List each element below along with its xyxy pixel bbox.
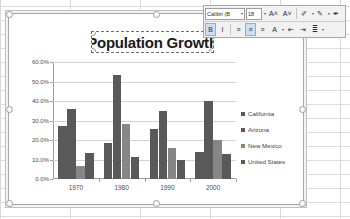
highlight-color-icon[interactable]: ✐ [299,7,310,20]
chart-bar[interactable] [168,148,177,179]
legend-item-label: United States [248,158,285,165]
y-axis-tick [50,121,53,122]
chart-bar[interactable] [104,143,113,179]
x-axis-tick-label: 1990 [160,184,174,191]
highlight-color-chevron-down-icon[interactable]: ▾ [312,11,314,16]
legend-item[interactable]: New Mexico [241,142,305,149]
y-axis-tick [50,101,53,102]
chart-handle-middle-left[interactable] [6,106,13,113]
align-center-button[interactable]: ≡ [245,23,256,36]
chart-bar[interactable] [67,109,76,179]
y-axis-tick-label: 60.0% [32,59,49,65]
shrink-font-icon[interactable]: A˅ [281,7,294,20]
legend-item[interactable]: California [241,110,305,117]
bullets-icon[interactable]: ≣ [309,23,320,36]
chart-bar[interactable] [177,160,186,180]
chart-handle-bottom-middle[interactable] [153,200,160,207]
chart-bar[interactable] [204,101,213,179]
x-axis-tick [145,179,146,182]
y-axis-tick-label: 50.0% [32,79,49,85]
decrease-indent-icon[interactable]: ⇤ [285,23,296,36]
font-settings-icon[interactable]: A [269,23,280,36]
chart-bar[interactable] [113,75,122,179]
x-axis-tick-label: 2000 [206,184,220,191]
font-size-combo[interactable]: 18 [246,8,262,20]
y-axis-tick-label: 20.0% [32,137,49,143]
chart-bar[interactable] [213,140,222,179]
chart-bar[interactable] [195,152,204,179]
y-axis-tick-label: 40.0% [32,98,49,104]
x-axis-tick-label: 1980 [114,184,128,191]
chart-bar[interactable] [122,124,131,179]
legend-item[interactable]: Arizona [241,126,305,133]
align-right-button[interactable]: ≡ [257,23,268,36]
legend-item-label: New Mexico [248,142,282,149]
chart-bar-group[interactable] [58,62,94,179]
chart-bar[interactable] [76,166,85,179]
italic-button[interactable]: I [217,23,228,36]
font-size-value: 18 [248,11,260,17]
increase-indent-icon[interactable]: ⇥ [297,23,308,36]
legend-swatch-icon [241,112,245,116]
x-axis-tick [190,179,191,182]
chart-bar-group[interactable] [195,62,231,179]
format-painter-icon[interactable]: ✒ [331,7,342,20]
sheet-row-divider [0,216,350,217]
font-name-value: Calibri (B [207,11,240,17]
chart-handle-top-middle[interactable] [153,11,160,18]
grow-font-icon[interactable]: A˄ [267,7,280,20]
chart-title-text: Population Growth [91,35,214,50]
y-axis-tick [50,82,53,83]
y-axis-labels: 60.0%50.0%40.0%30.0%20.0%10.0%0.0% [9,62,49,179]
x-axis-tick [236,179,237,182]
x-axis-tick-label: 1970 [69,184,83,191]
chart-plot-area[interactable]: 1970198019902000 [53,62,236,179]
legend-swatch-icon [241,128,245,132]
chart-handle-middle-right[interactable] [299,106,306,113]
chart-bar[interactable] [58,126,67,179]
chart-object[interactable]: 60.0%50.0%40.0%30.0%20.0%10.0%0.0% 19701… [8,13,304,205]
y-axis-tick [50,160,53,161]
chart-bar[interactable] [150,129,159,179]
chart-bar[interactable] [222,154,231,179]
y-axis-tick [50,179,53,180]
y-axis-tick-label: 10.0% [32,157,49,163]
chart-bar[interactable] [159,111,168,179]
chevron-down-icon: ▾ [241,11,243,16]
y-axis-tick-label: 30.0% [32,118,49,124]
chart-handle-bottom-right[interactable] [299,200,306,207]
chart-title-box[interactable]: Population Growth [91,31,214,53]
font-color-icon[interactable]: ✎ [315,7,326,20]
font-name-combo[interactable]: Calibri (B ▾ [205,8,245,20]
bullets-chevron-down-icon[interactable]: ▾ [322,27,324,32]
chart-legend[interactable]: CaliforniaArizonaNew MexicoUnited States [241,110,305,174]
title-handle-bottom-right[interactable] [209,48,214,53]
chart-bar[interactable] [131,157,140,179]
chart-handle-bottom-left[interactable] [6,200,13,207]
x-axis-tick [99,179,100,182]
legend-swatch-icon [241,160,245,164]
mini-toolbar-row-2: B I ≡ ≡ ≡ A ▾ ⇤ ⇥ ≣ ▾ [204,21,345,37]
font-color-chevron-down-icon[interactable]: ▾ [328,11,330,16]
legend-item-label: Arizona [248,126,269,133]
font-size-chevron-down-icon[interactable]: ▾ [264,11,266,16]
toolbar-separator [296,8,297,19]
mini-toolbar-row-1: Calibri (B ▾ 18 ▾ A˄ A˅ ✐ ▾ ✎ ▾ ✒ [204,6,345,21]
font-settings-chevron-down-icon[interactable]: ▾ [282,27,284,32]
y-axis-tick [50,62,53,63]
y-axis-tick [50,140,53,141]
sheet-column-divider [0,0,1,219]
align-left-button[interactable]: ≡ [233,23,244,36]
legend-swatch-icon [241,144,245,148]
chart-handle-top-left[interactable] [6,11,13,18]
legend-item[interactable]: United States [241,158,305,165]
y-axis-tick-label: 0.0% [35,176,49,182]
chart-bar-group[interactable] [150,62,186,179]
toolbar-separator-2 [230,24,231,35]
chart-bar-group[interactable] [104,62,140,179]
title-handle-bottom-left[interactable] [91,48,96,53]
bold-button[interactable]: B [205,23,216,36]
floating-mini-toolbar[interactable]: Calibri (B ▾ 18 ▾ A˄ A˅ ✐ ▾ ✎ ▾ ✒ B I ≡ … [203,5,346,38]
chart-bar[interactable] [85,153,94,179]
legend-item-label: California [248,110,274,117]
